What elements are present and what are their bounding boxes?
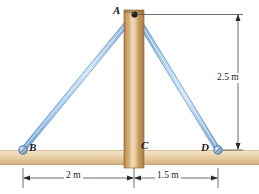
- pin-a: [131, 11, 137, 17]
- figure-canvas: [0, 0, 259, 194]
- label-point-c: C: [141, 140, 148, 151]
- dimension-label-vertical-height: 2.5 m: [215, 73, 241, 83]
- label-point-b: B: [29, 142, 36, 153]
- pin-b: [19, 146, 27, 154]
- label-point-a: A: [113, 5, 120, 16]
- statics-figure: A B C D 2.5 m 2 m 1.5 m: [0, 0, 259, 194]
- dimension-label-left-span: 2 m: [64, 171, 83, 181]
- label-point-d: D: [201, 142, 209, 153]
- pin-d: [214, 146, 222, 154]
- cable-ad: [136, 16, 219, 150]
- cable-ab: [23, 16, 134, 150]
- dimension-label-right-span: 1.5 m: [155, 171, 181, 181]
